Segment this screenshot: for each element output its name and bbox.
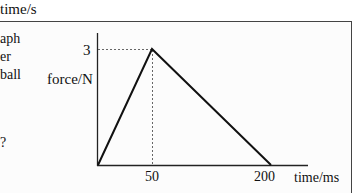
y-axis-label: force/N (47, 72, 93, 87)
force-curve (98, 49, 271, 165)
x-tick-200: 200 (254, 170, 275, 184)
y-tick-3: 3 (83, 43, 91, 58)
force-time-graph (0, 0, 358, 193)
x-tick-50: 50 (145, 170, 159, 184)
x-axis-label: time/ms (294, 171, 339, 185)
